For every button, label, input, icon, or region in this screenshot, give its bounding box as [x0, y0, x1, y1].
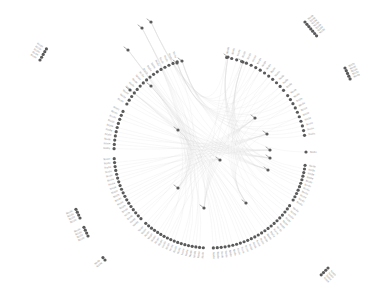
- leaf-node[interactable]: [301, 175, 304, 178]
- leaf-node[interactable]: [263, 229, 266, 232]
- inner-node[interactable]: [140, 26, 143, 29]
- leaf-node[interactable]: [125, 198, 128, 201]
- inner-node[interactable]: [253, 116, 256, 119]
- cluster-node[interactable]: [38, 58, 41, 61]
- leaf-node[interactable]: [295, 192, 298, 195]
- inner-node[interactable]: [176, 186, 179, 189]
- leaf-node[interactable]: [116, 176, 119, 179]
- leaf-node[interactable]: [115, 130, 118, 133]
- leaf-node[interactable]: [139, 85, 142, 88]
- cluster-node[interactable]: [43, 50, 46, 53]
- inner-node[interactable]: [180, 59, 183, 62]
- leaf-node[interactable]: [301, 124, 304, 127]
- leaf-node[interactable]: [114, 165, 117, 168]
- leaf-node[interactable]: [270, 224, 273, 227]
- cluster-node[interactable]: [78, 216, 81, 219]
- leaf-node[interactable]: [148, 75, 151, 78]
- leaf-node[interactable]: [150, 227, 153, 230]
- cluster-node[interactable]: [347, 75, 350, 78]
- leaf-node[interactable]: [263, 71, 266, 74]
- leaf-node[interactable]: [122, 191, 125, 194]
- leaf-node[interactable]: [144, 222, 147, 225]
- leaf-node[interactable]: [212, 246, 215, 249]
- cluster-node[interactable]: [76, 211, 79, 214]
- inner-node[interactable]: [268, 148, 271, 151]
- leaf-node[interactable]: [202, 246, 205, 249]
- leaf-node[interactable]: [123, 195, 126, 198]
- leaf-node[interactable]: [299, 120, 302, 123]
- inner-node[interactable]: [265, 132, 268, 135]
- leaf-node[interactable]: [159, 233, 162, 236]
- leaf-node[interactable]: [176, 241, 179, 244]
- leaf-node[interactable]: [288, 204, 291, 207]
- leaf-node[interactable]: [153, 229, 156, 232]
- leaf-node[interactable]: [302, 129, 305, 132]
- leaf-node[interactable]: [303, 134, 306, 137]
- leaf-node[interactable]: [120, 114, 123, 117]
- leaf-node[interactable]: [254, 66, 257, 69]
- leaf-node[interactable]: [127, 202, 130, 205]
- leaf-node[interactable]: [187, 244, 190, 247]
- leaf-node[interactable]: [163, 66, 166, 69]
- leaf-node[interactable]: [257, 233, 260, 236]
- leaf-node[interactable]: [121, 110, 124, 113]
- leaf-node[interactable]: [191, 245, 194, 248]
- leaf-node[interactable]: [278, 216, 281, 219]
- leaf-node[interactable]: [227, 245, 230, 248]
- leaf-node[interactable]: [250, 237, 253, 240]
- leaf-node[interactable]: [253, 235, 256, 238]
- leaf-node[interactable]: [118, 184, 121, 187]
- cluster-node[interactable]: [348, 77, 351, 80]
- cluster-node[interactable]: [42, 53, 45, 56]
- leaf-node[interactable]: [281, 213, 284, 216]
- leaf-node[interactable]: [293, 195, 296, 198]
- leaf-node[interactable]: [231, 244, 234, 247]
- cluster-node[interactable]: [103, 258, 106, 261]
- cluster-node[interactable]: [101, 256, 104, 259]
- leaf-node[interactable]: [117, 122, 120, 125]
- leaf-node[interactable]: [291, 102, 294, 105]
- leaf-node[interactable]: [220, 246, 223, 249]
- cluster-node[interactable]: [74, 208, 77, 211]
- leaf-node[interactable]: [139, 217, 142, 220]
- leaf-node[interactable]: [159, 68, 162, 71]
- leaf-node[interactable]: [303, 167, 306, 170]
- inner-node[interactable]: [268, 156, 271, 159]
- leaf-node[interactable]: [271, 78, 274, 81]
- leaf-node[interactable]: [169, 238, 172, 241]
- leaf-node[interactable]: [137, 214, 140, 217]
- inner-node[interactable]: [149, 84, 152, 87]
- leaf-node[interactable]: [259, 69, 262, 72]
- leaf-node[interactable]: [245, 62, 248, 65]
- cluster-node[interactable]: [85, 231, 88, 234]
- leaf-node[interactable]: [273, 222, 276, 225]
- leaf-node[interactable]: [115, 173, 118, 176]
- leaf-node[interactable]: [152, 73, 155, 76]
- leaf-node[interactable]: [194, 245, 197, 248]
- leaf-node[interactable]: [302, 171, 305, 174]
- leaf-node[interactable]: [133, 91, 136, 94]
- leaf-node[interactable]: [266, 227, 269, 230]
- cluster-node[interactable]: [84, 229, 87, 232]
- leaf-node[interactable]: [167, 64, 170, 67]
- leaf-node[interactable]: [113, 139, 116, 142]
- cluster-node[interactable]: [346, 72, 349, 75]
- leaf-node[interactable]: [142, 81, 145, 84]
- leaf-node[interactable]: [113, 143, 116, 146]
- leaf-node[interactable]: [296, 111, 299, 114]
- inner-node[interactable]: [266, 168, 269, 171]
- leaf-node[interactable]: [173, 239, 176, 242]
- cluster-node[interactable]: [324, 269, 327, 272]
- leaf-node[interactable]: [183, 243, 186, 246]
- leaf-node[interactable]: [250, 64, 253, 67]
- leaf-node[interactable]: [283, 210, 286, 213]
- leaf-node[interactable]: [112, 147, 115, 150]
- inner-node[interactable]: [244, 201, 247, 204]
- leaf-node[interactable]: [129, 205, 132, 208]
- leaf-node[interactable]: [113, 157, 116, 160]
- leaf-node[interactable]: [298, 115, 301, 118]
- leaf-node[interactable]: [113, 161, 116, 164]
- leaf-node[interactable]: [116, 126, 119, 129]
- cluster-node[interactable]: [343, 66, 346, 69]
- inner-node[interactable]: [128, 88, 131, 91]
